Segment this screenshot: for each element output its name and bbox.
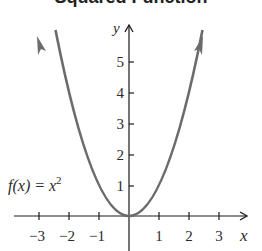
- parabola-chart: Squared Function −3 −2 −1 1 2 3 1 2 3 4 …: [0, 0, 262, 251]
- chart-title: Squared Function: [55, 0, 208, 7]
- y-tick-label: 1: [117, 178, 125, 194]
- function-label: f(x) = x2: [8, 174, 62, 195]
- x-tick-label: −2: [59, 228, 75, 244]
- y-ticks: [129, 62, 134, 186]
- y-tick-label: 3: [117, 116, 125, 132]
- y-tick-label: 5: [117, 54, 125, 70]
- x-tick-label: 1: [155, 228, 163, 244]
- function-label-exponent: 2: [56, 174, 62, 186]
- y-tick-label: 4: [117, 85, 125, 101]
- x-tick-label: −1: [89, 228, 105, 244]
- x-tick-label: 3: [215, 228, 223, 244]
- curve-arrow-left-icon: [37, 36, 46, 55]
- x-tick-label: −3: [29, 228, 45, 244]
- y-axis-label: y: [111, 20, 120, 36]
- y-tick-label: 2: [117, 147, 125, 163]
- x-tick-label: 2: [185, 228, 193, 244]
- function-label-main: f(x) = x: [8, 177, 56, 195]
- x-axis-label: x: [239, 226, 248, 245]
